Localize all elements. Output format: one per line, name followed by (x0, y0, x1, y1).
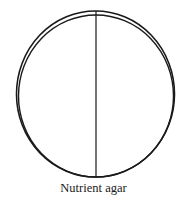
petri-dish-diagram (0, 0, 181, 198)
dish-caption: Nutrient agar (0, 181, 181, 195)
